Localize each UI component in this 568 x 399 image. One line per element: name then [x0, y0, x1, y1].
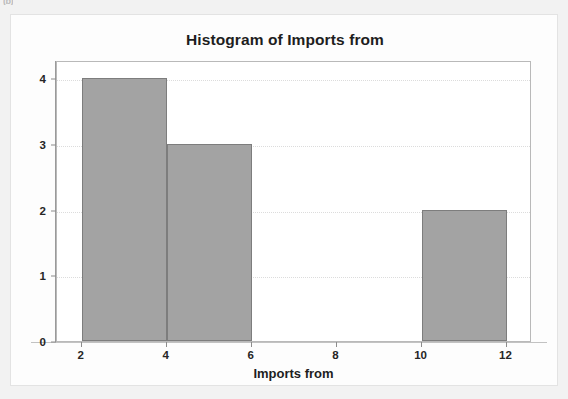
- bars-layer: [57, 62, 530, 341]
- x-axis-title: Imports from: [56, 366, 531, 381]
- plot-area: [56, 61, 531, 342]
- histogram-bar: [167, 144, 252, 341]
- y-tick-label: 1: [28, 270, 46, 282]
- y-tick-mark-0: [51, 342, 56, 343]
- y-tick-label: 4: [28, 73, 46, 85]
- x-tick-label: 4: [153, 349, 179, 361]
- x-tick-mark-4: [166, 342, 167, 347]
- x-tick-label: 6: [238, 349, 264, 361]
- y-tick-mark-3: [51, 145, 56, 146]
- x-tick-mark-8: [336, 342, 337, 347]
- y-tick-label: 3: [28, 139, 46, 151]
- x-tick-label: 8: [323, 349, 349, 361]
- x-tick-mark-6: [251, 342, 252, 347]
- scan-artifact-text: (b): [3, 0, 13, 5]
- y-tick-mark-4: [51, 79, 56, 80]
- x-tick-label: 10: [408, 349, 434, 361]
- x-tick-label: 12: [493, 349, 519, 361]
- x-tick-label: 2: [68, 349, 94, 361]
- histogram-bar: [82, 78, 167, 341]
- histogram-bar: [422, 210, 507, 341]
- x-axis-line: [31, 342, 547, 343]
- y-tick-label: 2: [28, 205, 46, 217]
- y-tick-mark-1: [51, 276, 56, 277]
- x-tick-mark-2: [81, 342, 82, 347]
- x-tick-mark-10: [421, 342, 422, 347]
- x-tick-mark-12: [506, 342, 507, 347]
- y-tick-mark-2: [51, 210, 56, 211]
- figure-card: Histogram of Imports from Frequency 0123…: [10, 14, 558, 386]
- chart-title: Histogram of Imports from: [11, 31, 559, 49]
- y-tick-label: 0: [28, 336, 46, 348]
